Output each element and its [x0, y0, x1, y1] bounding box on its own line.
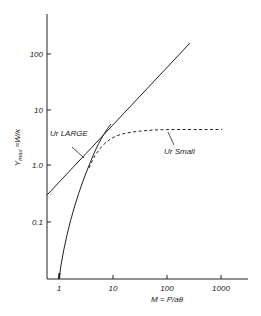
- y-tick-label-0.1: 0.1: [32, 218, 43, 227]
- y-ticks: [47, 54, 51, 222]
- x-tick-label-1: 1: [57, 284, 61, 293]
- x-tick-label-100: 100: [160, 284, 174, 293]
- x-tick-label-10: 10: [109, 284, 118, 293]
- y-axis-label: Ymax ≈W/κ: [13, 128, 23, 166]
- series-ur-small: [89, 130, 222, 169]
- annotation-ur-small-leader: [168, 132, 174, 145]
- x-ticks: [59, 275, 221, 279]
- annotation-ur-large-leader: [72, 147, 84, 158]
- x-tick-label-1000: 1000: [212, 284, 230, 293]
- annotation-ur-small: Ur Small: [164, 147, 195, 156]
- y-tick-label-10: 10: [34, 106, 43, 115]
- series-ur-large: [47, 43, 190, 195]
- curve-start-mark: [59, 273, 60, 279]
- annotation-ur-large: Ur LARGE: [50, 129, 88, 138]
- y-tick-label-1: 1.0: [32, 161, 44, 170]
- series-exact-curve: [59, 124, 111, 279]
- y-tick-label-100: 100: [30, 50, 44, 59]
- x-axis-label: M = P/aθ: [151, 295, 184, 304]
- chart: 100 10 1.0 0.1 1 10 100 1000 M = P/aθ Ym…: [0, 0, 261, 316]
